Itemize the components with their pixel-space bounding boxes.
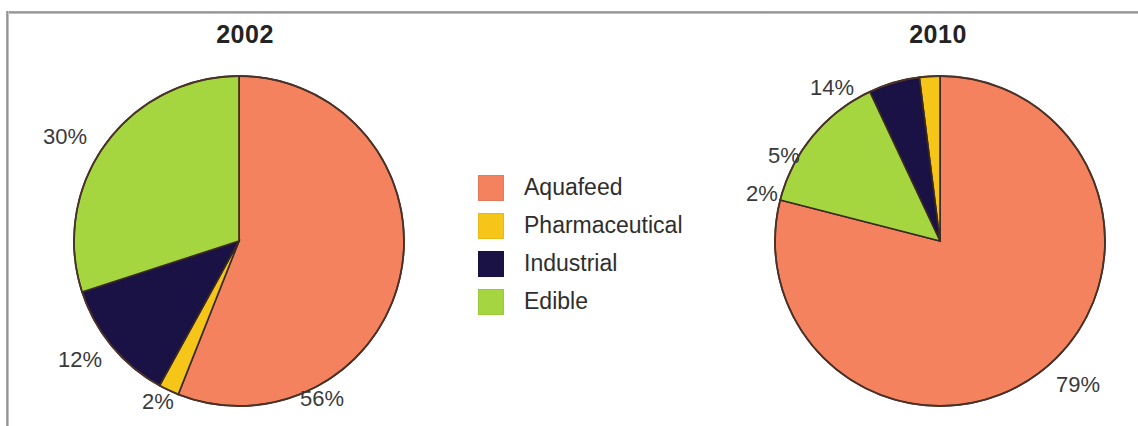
legend-item-industrial[interactable]: Industrial [478, 246, 708, 281]
pie-2002-svg [72, 74, 406, 408]
pct-label-2010-edible: 14% [810, 75, 854, 101]
legend-swatch-icon-industrial [478, 251, 504, 277]
pct-label-2002-industrial: 12% [58, 347, 102, 373]
pct-label-2010-pharmaceutical: 2% [746, 181, 778, 207]
pie-2010 [773, 74, 1107, 408]
legend-item-edible[interactable]: Edible [478, 284, 708, 319]
legend-item-pharmaceutical[interactable]: Pharmaceutical [478, 208, 708, 243]
chart-page: 2002 30% 12% 2% 56% Aquafeed Pharmac [0, 0, 1138, 426]
legend-label-pharmaceutical: Pharmaceutical [524, 212, 683, 239]
pie-chart-2010: 2010 14% 5% 2% 79% [710, 0, 1138, 426]
pct-label-2010-aquafeed: 79% [1056, 372, 1100, 398]
pie-chart-2002: 2002 30% 12% 2% 56% [0, 0, 470, 426]
legend-label-industrial: Industrial [524, 250, 617, 277]
legend-swatch-icon-edible [478, 289, 504, 315]
pct-label-2002-pharmaceutical: 2% [142, 389, 174, 415]
legend-label-aquafeed: Aquafeed [524, 174, 622, 201]
pie-2010-svg [773, 74, 1107, 408]
pie-2002 [72, 74, 406, 408]
legend-label-edible: Edible [524, 288, 588, 315]
pie-2010-slices [775, 76, 1105, 406]
legend-swatch-icon-aquafeed [478, 175, 504, 201]
pct-label-2002-edible: 30% [43, 124, 87, 150]
pct-label-2010-industrial: 5% [768, 143, 800, 169]
chart-title-2002: 2002 [150, 20, 340, 49]
pct-label-2002-aquafeed: 56% [300, 386, 344, 412]
chart-title-2010: 2010 [843, 20, 1033, 49]
pie-2002-slices [74, 76, 404, 406]
legend-swatch-icon-pharmaceutical [478, 213, 504, 239]
legend-item-aquafeed[interactable]: Aquafeed [478, 170, 708, 205]
legend: Aquafeed Pharmaceutical Industrial Edibl… [478, 170, 708, 322]
